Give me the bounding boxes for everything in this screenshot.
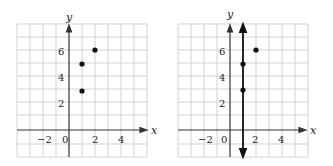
x-tick: 4 bbox=[118, 134, 124, 145]
x-tick: 0 bbox=[221, 134, 227, 145]
x-tick: −2 bbox=[37, 134, 52, 145]
x-axis-label: x bbox=[310, 124, 317, 137]
x-tick: 0 bbox=[62, 134, 68, 145]
y-tick: 2 bbox=[58, 98, 64, 109]
y-tick: 2 bbox=[219, 98, 225, 109]
y-tick: 6 bbox=[219, 46, 225, 57]
left-scatter-chart: x y −2 0 2 4 2 4 6 bbox=[0, 0, 166, 166]
y-axis-label: y bbox=[226, 8, 234, 21]
x-axis-label: x bbox=[151, 124, 158, 137]
x-tick: 2 bbox=[252, 134, 258, 145]
x-tick: 2 bbox=[92, 134, 98, 145]
x-tick: 4 bbox=[278, 134, 284, 145]
y-axis-label: y bbox=[65, 11, 73, 24]
y-tick: 4 bbox=[219, 72, 225, 83]
x-tick: −2 bbox=[198, 134, 213, 145]
right-scatter-chart: x y −2 0 2 4 2 4 6 bbox=[166, 0, 333, 166]
y-tick: 4 bbox=[58, 72, 64, 83]
y-tick: 6 bbox=[58, 46, 64, 57]
